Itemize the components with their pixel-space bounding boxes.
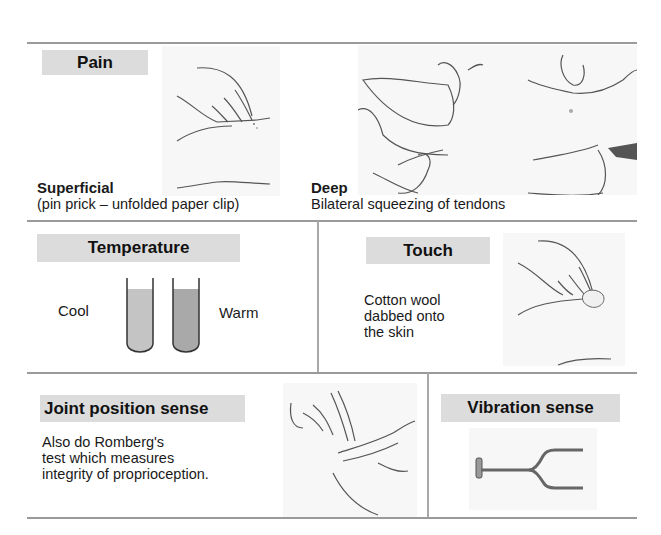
joint-position-title: Joint position sense	[40, 395, 245, 422]
deep-description: Bilateral squeezing of tendons	[311, 196, 505, 212]
cotton-wool-illustration	[503, 233, 625, 366]
superficial-description: (pin prick – unfolded paper clip)	[37, 196, 239, 212]
pain-title-text: Pain	[77, 53, 113, 73]
tuning-fork-drawing	[469, 428, 597, 510]
vibration-title-text: Vibration sense	[467, 398, 593, 418]
cotton-wool-drawing	[503, 233, 625, 366]
vibration-title: Vibration sense	[441, 394, 620, 422]
tendon-squeeze-illustration	[358, 45, 637, 195]
row2-rule	[27, 372, 637, 374]
bottom-rule	[27, 517, 637, 519]
touch-description-line: the skin	[364, 324, 445, 340]
touch-description-line: Cotton wool	[364, 292, 445, 308]
joint-position-description-line: Also do Romberg's	[42, 434, 209, 450]
warm-label: Warm	[219, 305, 258, 321]
joint-position-title-text: Joint position sense	[44, 399, 208, 419]
tuning-fork-illustration	[469, 428, 597, 510]
superficial-heading: Superficial	[37, 180, 114, 196]
temperature-title: Temperature	[37, 234, 240, 262]
joint-position-description: Also do Romberg's test which measures in…	[42, 434, 209, 482]
row2-divider	[317, 221, 319, 372]
deep-heading: Deep	[311, 180, 348, 196]
test-tubes-illustration	[120, 275, 210, 365]
finger-joint-drawing	[283, 383, 417, 517]
top-rule	[27, 42, 637, 44]
tendon-squeeze-drawing	[358, 45, 637, 195]
touch-title-text: Touch	[403, 241, 453, 261]
joint-position-description-line: test which measures	[42, 450, 209, 466]
touch-description: Cotton wool dabbed onto the skin	[364, 292, 445, 340]
row3-divider	[427, 373, 429, 517]
temperature-title-text: Temperature	[88, 238, 190, 258]
row1-rule	[27, 220, 637, 222]
joint-position-description-line: integrity of proprioception.	[42, 466, 209, 482]
test-tubes-drawing	[120, 275, 210, 365]
finger-joint-illustration	[283, 383, 417, 517]
touch-description-line: dabbed onto	[364, 308, 445, 324]
touch-title: Touch	[366, 237, 490, 264]
cool-label: Cool	[58, 303, 89, 319]
pain-title: Pain	[42, 50, 148, 75]
pin-prick-drawing	[162, 46, 280, 196]
hand-pin-prick-illustration	[162, 46, 280, 196]
